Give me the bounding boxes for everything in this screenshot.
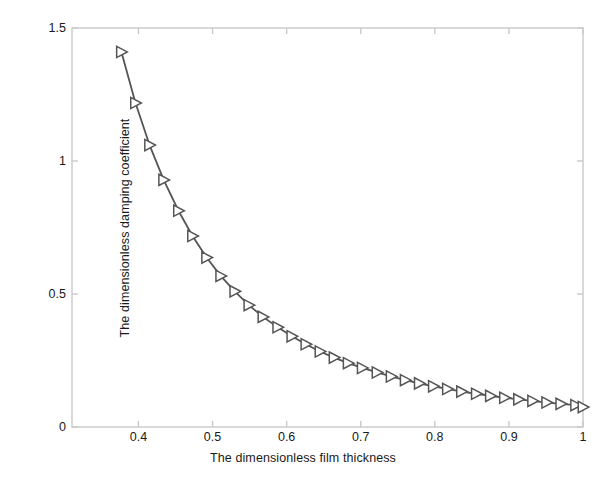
axis-ticks	[72, 28, 583, 427]
x-tick-label: 0.4	[130, 430, 147, 444]
y-tick-label: 0	[28, 420, 66, 434]
y-tick-label: 0.5	[28, 287, 66, 301]
x-tick-label: 0.8	[426, 430, 443, 444]
x-axis-label: The dimensionless film thickness	[0, 451, 606, 465]
y-axis-label: The dimensionless damping coefficient	[118, 119, 132, 338]
chart-figure: The dimensionless film thickness The dim…	[0, 0, 606, 493]
axes-frame	[72, 28, 583, 427]
chart-plot-area	[0, 0, 606, 493]
y-tick-label: 1	[28, 154, 66, 168]
x-tick-label: 0.6	[278, 430, 295, 444]
x-tick-label: 0.5	[204, 430, 221, 444]
y-tick-label: 1.5	[28, 21, 66, 35]
data-series-line	[121, 52, 583, 407]
x-tick-label: 1	[580, 430, 587, 444]
data-series-markers	[117, 46, 589, 412]
x-tick-label: 0.9	[500, 430, 517, 444]
x-tick-label: 0.7	[352, 430, 369, 444]
y-axis-label-container: The dimensionless damping coefficient	[113, 1, 137, 456]
